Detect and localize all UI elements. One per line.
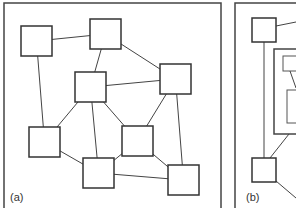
inner-node (287, 90, 296, 123)
node (75, 72, 106, 102)
network-diagram (0, 0, 296, 208)
node (29, 127, 60, 157)
node (90, 19, 121, 49)
edge (276, 22, 296, 26)
node (168, 165, 199, 195)
edge (270, 134, 289, 158)
node (83, 158, 114, 188)
panel-b-label: (b) (246, 191, 259, 203)
node (21, 26, 52, 56)
inner-node (283, 56, 296, 71)
node (160, 64, 191, 94)
node (252, 18, 276, 42)
panel-a-label: (a) (10, 191, 23, 203)
edge (276, 181, 296, 198)
node (252, 158, 276, 182)
node (122, 126, 153, 156)
